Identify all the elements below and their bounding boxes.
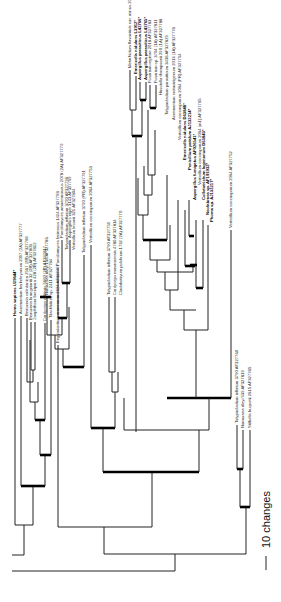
taxon-label: Aspergillus parasiticus L42766* <box>137 17 142 80</box>
taxon-labels: Homo sapiens U29644* Acremonium berkeley… <box>12 0 252 428</box>
scale-bar: 10 changes <box>260 491 272 570</box>
taxon-label: Metarhizium flavoviride var. minus 2037 … <box>127 0 132 68</box>
taxon-label: Engyodontium aranearum 2924 AF327797 <box>55 263 60 343</box>
taxon-label: Acremonium berkeleyanum 2097 (2A) AF3277… <box>18 223 23 314</box>
taxon-label: Acremonium crotocinigenum 2013 (1A) AF32… <box>171 26 176 120</box>
taxon-label: Nomuraea rileyi 136 AF327786 <box>44 237 49 295</box>
taxon-label: Nomuraea rileyi 539 AF327819 <box>240 370 245 428</box>
taxon-label: Zoophthora brevipora 428 (2B) AF327812 <box>32 242 37 320</box>
taxon-label: Phoma sp. AJ132217* <box>209 178 214 222</box>
taxon-label: Tolypocladium inflatum 3790 AF327759 <box>106 221 111 295</box>
taxon-label: Tolypocladium inflatum 3790 (PR) AF32779… <box>81 169 86 253</box>
taxon-label: Verticillium coccosporum 2064 AF327752 <box>228 151 233 228</box>
taxon-label: Tolypocladium inflatum 3790 AF327760 <box>234 349 239 423</box>
scale-bar-label: 10 changes <box>260 491 272 548</box>
taxon-label: Tolypocladium parasiticum 3436 AF327829 <box>164 34 169 115</box>
taxon-label: Cladobotryum pulchrum 1732 (2A) AF327770 <box>118 210 123 295</box>
taxon-label: Verticillium lecanii 321 AF327804 <box>71 188 76 250</box>
taxon-label: Cordyceps masaraensis 4780 AF327814 <box>112 219 117 295</box>
taxon-label: Homo sapiens U29644* <box>12 270 17 316</box>
taxon-label: Stilbella buquetii 2615 AF327785 <box>247 366 252 428</box>
taxon-label: Hirsutella thompsonii 290 (1A) AF327788 <box>158 18 163 95</box>
phylogenetic-tree: Homo sapiens U29644* Acremonium berkeley… <box>0 0 281 602</box>
tree-branches <box>12 70 250 571</box>
taxon-label: Fusarium reginae 2018 AF327783 <box>147 19 152 83</box>
taxon-label: Verticillium coccosporum 2064 AF327753 <box>88 166 93 243</box>
